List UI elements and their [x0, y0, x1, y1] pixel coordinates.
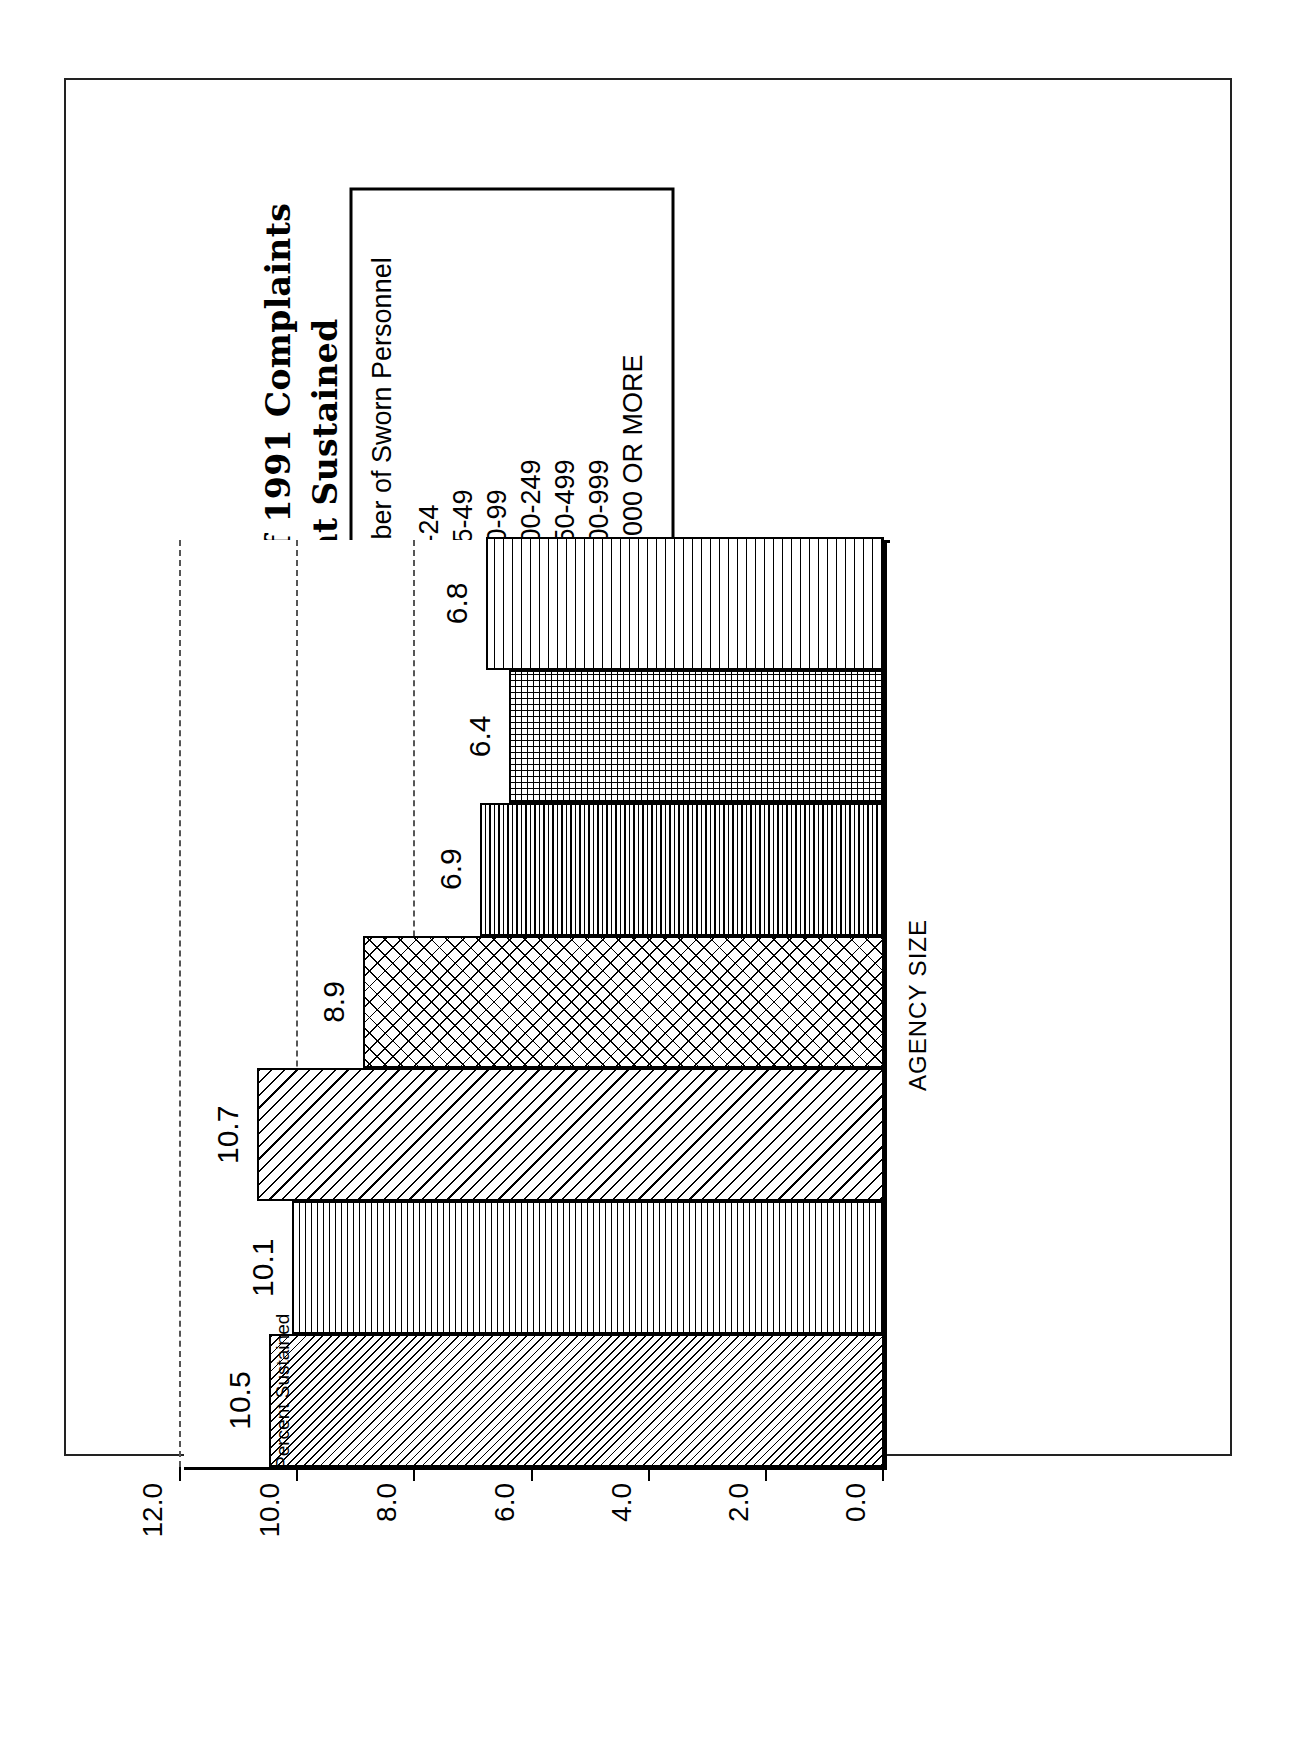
- plot-area: 0.02.04.06.08.010.012.0 10.510.110.78.96…: [184, 540, 887, 1470]
- y-axis-tick: [296, 1467, 298, 1481]
- y-axis-tick: [765, 1467, 767, 1481]
- y-axis-tick-label: 0.0: [842, 1483, 870, 1579]
- bar[interactable]: [363, 936, 884, 1069]
- y-axis-tick: [531, 1467, 533, 1481]
- y-axis-tick-label: 4.0: [608, 1483, 636, 1579]
- page-border: Figure 14.2: Final Disposition of 1991 C…: [64, 78, 1232, 1456]
- x-axis-title: AGENCY SIZE: [904, 540, 932, 1470]
- bar-value-label: 6.8: [440, 583, 474, 625]
- bar[interactable]: [486, 537, 884, 670]
- bar-value-label: 6.9: [434, 848, 468, 890]
- y-axis-tick: [882, 1467, 884, 1481]
- gridline: [179, 540, 181, 1467]
- y-axis-tick-label: 12.0: [139, 1483, 167, 1579]
- y-axis-tick-label: 2.0: [725, 1483, 753, 1579]
- y-axis-tick: [179, 1467, 181, 1481]
- bar[interactable]: [480, 803, 884, 936]
- chart-area: 0.02.04.06.08.010.012.0 10.510.110.78.96…: [66, 460, 1066, 1590]
- bar[interactable]: [269, 1334, 884, 1467]
- bar[interactable]: [257, 1068, 884, 1201]
- bar-value-label: 8.9: [317, 981, 351, 1023]
- bar-value-label: 6.4: [463, 715, 497, 757]
- y-axis-tick-label: 8.0: [373, 1483, 401, 1579]
- bar-value-label: 10.1: [246, 1239, 280, 1297]
- chart: 0.02.04.06.08.010.012.0 10.510.110.78.96…: [66, 460, 1066, 1590]
- bar-value-label: 10.7: [211, 1106, 245, 1164]
- y-axis-tick: [413, 1467, 415, 1481]
- bar[interactable]: [509, 670, 884, 803]
- y-axis-tick-label: 10.0: [256, 1483, 284, 1579]
- bar-value-label: 10.5: [223, 1371, 257, 1429]
- bar[interactable]: [292, 1201, 884, 1334]
- y-axis-tick: [648, 1467, 650, 1481]
- y-axis-title: Percent Sustained: [272, 1314, 294, 1469]
- y-axis-tick-label: 6.0: [491, 1483, 519, 1579]
